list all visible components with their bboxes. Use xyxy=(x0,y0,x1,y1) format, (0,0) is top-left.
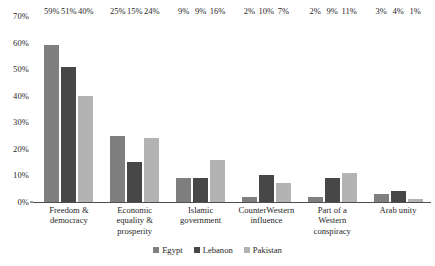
x-axis-category-line: democracy xyxy=(37,215,101,225)
bar-column: 9% xyxy=(325,16,340,202)
bar-value-label: 7% xyxy=(278,7,289,16)
legend-item-pakistan[interactable]: Pakistan xyxy=(244,246,282,255)
bar[interactable]: 9% xyxy=(193,178,208,202)
x-axis-category-label: Arab unity xyxy=(365,205,431,236)
bar-group: 3%4%1% xyxy=(365,16,431,202)
legend-item-egypt[interactable]: Egypt xyxy=(153,246,183,255)
bar-value-label: 15% xyxy=(127,7,143,16)
bar-column: 4% xyxy=(391,16,406,202)
x-axis-category-line: Economic xyxy=(103,205,167,215)
bar-value-label: 24% xyxy=(144,7,160,16)
x-axis-category-line: Islamic xyxy=(169,205,233,215)
bar-column: 10% xyxy=(259,16,274,202)
bar[interactable]: 9% xyxy=(325,178,340,202)
bar-value-label: 59% xyxy=(44,7,60,16)
legend-swatch-icon xyxy=(153,247,159,253)
bar-value-label: 2% xyxy=(310,7,321,16)
x-axis-line xyxy=(33,202,431,203)
bar-column: 59% xyxy=(44,16,59,202)
bar-value-label: 51% xyxy=(61,7,77,16)
y-axis-tick-label: 30% xyxy=(13,117,29,127)
x-axis-category-line: Part of a xyxy=(300,205,364,215)
legend-label: Egypt xyxy=(162,246,183,255)
bar-column: 15% xyxy=(127,16,142,202)
bar-column: 24% xyxy=(144,16,159,202)
bar-group: 25%15%24% xyxy=(102,16,168,202)
bar-column: 40% xyxy=(78,16,93,202)
y-axis-tick-label: 50% xyxy=(13,64,29,74)
bar-column: 1% xyxy=(408,16,423,202)
bar-group: 9%9%16% xyxy=(168,16,234,202)
legend-label: Pakistan xyxy=(253,246,282,255)
x-axis-category-line: Arab unity xyxy=(366,205,430,215)
x-axis-category-label: Freedom &democracy xyxy=(36,205,102,236)
bar-column: 2% xyxy=(242,16,257,202)
x-axis-category-label: Part of aWesternconspiracy xyxy=(299,205,365,236)
bar[interactable]: 9% xyxy=(176,178,191,202)
category-labels: Freedom &democracyEconomicequality &pros… xyxy=(36,205,431,236)
legend-swatch-icon xyxy=(244,247,250,253)
bar[interactable]: 2% xyxy=(242,197,257,202)
bar[interactable]: 11% xyxy=(342,173,357,202)
legend-item-lebanon[interactable]: Lebanon xyxy=(194,246,233,255)
x-axis-category-line: Western xyxy=(300,215,364,225)
bar-value-label: 9% xyxy=(195,7,206,16)
y-axis-tick-label: 70% xyxy=(13,11,29,21)
bar-value-label: 11% xyxy=(342,7,357,16)
bar[interactable]: 16% xyxy=(210,160,225,203)
x-axis-category-line: conspiracy xyxy=(300,226,364,236)
bar[interactable]: 15% xyxy=(127,162,142,202)
bar[interactable]: 40% xyxy=(78,96,93,202)
bar-group: 2%10%7% xyxy=(233,16,299,202)
bar-value-label: 3% xyxy=(375,7,386,16)
bar-column: 25% xyxy=(110,16,125,202)
bar-group: 2%9%11% xyxy=(299,16,365,202)
bar-groups: 59%51%40%25%15%24%9%9%16%2%10%7%2%9%11%3… xyxy=(36,16,431,202)
bar-value-label: 25% xyxy=(110,7,126,16)
legend-label: Lebanon xyxy=(203,246,233,255)
x-axis-category-line: prosperity xyxy=(103,226,167,236)
bar-value-label: 4% xyxy=(392,7,403,16)
x-axis-category-line: influence xyxy=(234,215,298,225)
bar[interactable]: 25% xyxy=(110,136,125,202)
bar-value-label: 9% xyxy=(327,7,338,16)
bar[interactable]: 7% xyxy=(276,183,291,202)
bar-column: 3% xyxy=(374,16,389,202)
chart-legend: EgyptLebanonPakistan xyxy=(0,246,435,255)
bar-value-label: 40% xyxy=(78,7,94,16)
y-axis-tick-label: 40% xyxy=(13,91,29,101)
x-axis-category-line: Freedom & xyxy=(37,205,101,215)
legend-swatch-icon xyxy=(194,247,200,253)
y-axis-tick-label: 0% xyxy=(17,197,29,207)
bar[interactable]: 59% xyxy=(44,45,59,202)
bar[interactable]: 4% xyxy=(391,191,406,202)
bar[interactable]: 51% xyxy=(61,67,76,203)
bar[interactable]: 1% xyxy=(408,199,423,202)
x-axis-category-label: Economicequality &prosperity xyxy=(102,205,168,236)
bar[interactable]: 2% xyxy=(308,197,323,202)
bar-group: 59%51%40% xyxy=(36,16,102,202)
bar-value-label: 9% xyxy=(178,7,189,16)
y-axis-tick-label: 20% xyxy=(13,144,29,154)
y-axis: 0%10%20%30%40%50%60%70% xyxy=(0,16,33,202)
bar-column: 51% xyxy=(61,16,76,202)
bar[interactable]: 10% xyxy=(259,175,274,202)
bar-column: 11% xyxy=(342,16,357,202)
bar-value-label: 1% xyxy=(409,7,420,16)
bar-column: 7% xyxy=(276,16,291,202)
y-axis-tick-label: 10% xyxy=(13,170,29,180)
bar-column: 9% xyxy=(193,16,208,202)
x-axis-category-line: government xyxy=(169,215,233,225)
y-axis-tick-label: 60% xyxy=(13,38,29,48)
bar-chart: 0%10%20%30%40%50%60%70% 59%51%40%25%15%2… xyxy=(0,0,435,266)
x-axis-category-line: equality & xyxy=(103,215,167,225)
x-axis-category-label: CounterWesterninfluence xyxy=(233,205,299,236)
bar[interactable]: 24% xyxy=(144,138,159,202)
x-axis-category-line: CounterWestern xyxy=(234,205,298,215)
bar-value-label: 10% xyxy=(259,7,275,16)
bar-value-label: 16% xyxy=(210,7,226,16)
bar-column: 16% xyxy=(210,16,225,202)
bar-value-label: 2% xyxy=(244,7,255,16)
bar[interactable]: 3% xyxy=(374,194,389,202)
x-axis-category-label: Islamicgovernment xyxy=(168,205,234,236)
